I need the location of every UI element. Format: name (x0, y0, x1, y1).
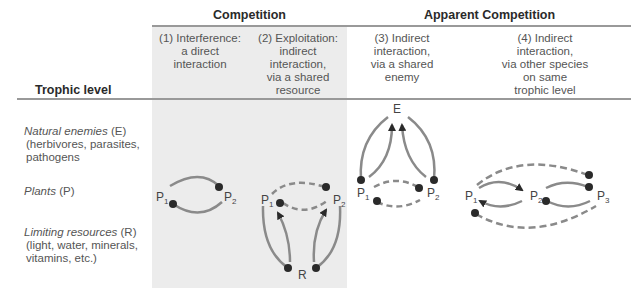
node-r: R (298, 268, 307, 282)
diagram-interference: P1 P2 (156, 177, 237, 213)
node-p2: P2 (224, 190, 237, 206)
node-p1: P1 (465, 189, 478, 205)
node-p1: P1 (156, 190, 169, 206)
node-p2: P2 (427, 186, 440, 202)
node-p1: P1 (357, 186, 370, 202)
diagram-same-trophic-level: P1 P2 P3 (465, 165, 610, 228)
interaction-diagrams: P1 P2 P1 P2 R E P1 P2 P1 P2 (0, 0, 631, 295)
diagram-exploitation: P1 P2 R (261, 183, 346, 282)
node-e: E (393, 102, 401, 116)
diagram-shared-enemy: E P1 P2 (357, 102, 440, 207)
node-p3: P3 (597, 189, 610, 205)
node-p2: P2 (530, 189, 543, 205)
